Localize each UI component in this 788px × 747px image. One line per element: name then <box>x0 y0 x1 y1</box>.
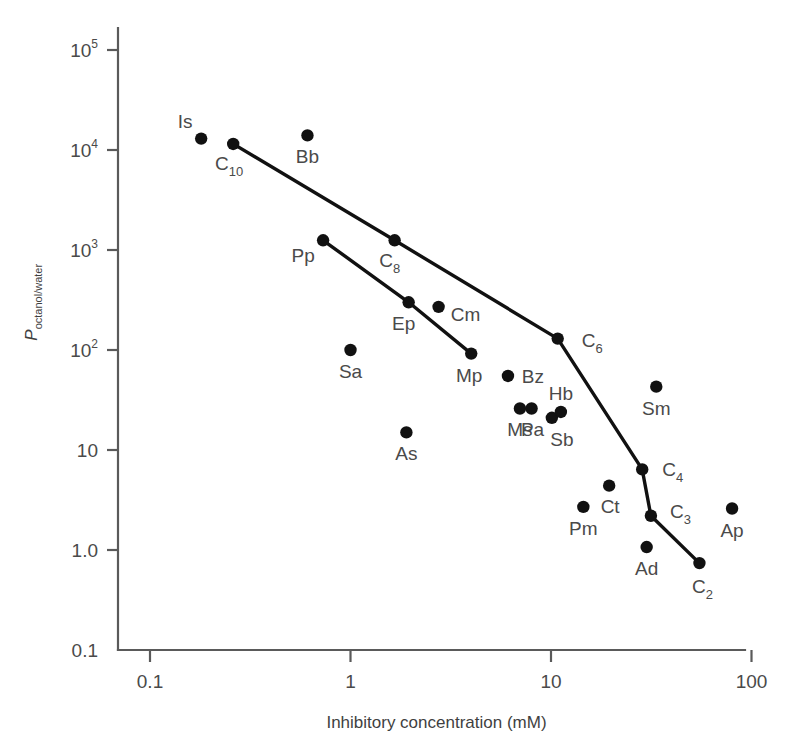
y-axis-tick-label: 10 <box>77 440 98 461</box>
data-point-label: Sm <box>642 398 671 419</box>
y-axis-tick-label: 102 <box>70 337 98 361</box>
y-axis-title: Poctanol/water <box>22 264 44 341</box>
point-labels-group: IsC10BbPpC8SaEpCmMpAsBzMsPaSbHbC6SmCtPmC… <box>178 111 744 602</box>
data-point <box>650 380 662 392</box>
data-point <box>227 138 239 150</box>
data-point-label: C6 <box>582 330 603 356</box>
data-point <box>388 234 400 246</box>
data-point <box>552 332 564 344</box>
x-axis-title: Inhibitory concentration (mM) <box>326 713 546 732</box>
data-point-label: Bz <box>522 366 544 387</box>
x-axis-tick-label: 1 <box>345 671 356 692</box>
data-point-label: C10 <box>215 153 243 179</box>
data-point <box>525 402 537 414</box>
data-point <box>400 426 412 438</box>
y-axis-tick-label: 103 <box>70 237 98 261</box>
data-point-label: Ad <box>635 558 658 579</box>
data-point <box>726 502 738 514</box>
data-point <box>640 541 652 553</box>
data-point-label: Hb <box>549 383 573 404</box>
data-point <box>301 129 313 141</box>
axis-titles-group: Inhibitory concentration (mM)Poctanol/wa… <box>22 264 547 732</box>
data-point <box>603 479 615 491</box>
data-point-label: Ct <box>601 496 621 517</box>
chart-figure: 105104103102101.00.10.1110100 IsC10BbPpC… <box>0 0 788 747</box>
data-point-label: Mp <box>456 365 482 386</box>
data-point-label: C2 <box>692 576 713 602</box>
data-point <box>645 510 657 522</box>
data-point-label: C8 <box>379 250 400 276</box>
y-axis-tick-label: 0.1 <box>72 640 98 661</box>
data-point <box>514 402 526 414</box>
data-point <box>195 132 207 144</box>
y-axis-tick-label: 105 <box>70 37 98 61</box>
data-point-label: Ep <box>392 313 415 334</box>
axes-group: 105104103102101.00.10.1110100 <box>70 28 767 692</box>
data-point-label: Sb <box>550 429 573 450</box>
data-point-label: Pp <box>291 245 314 266</box>
x-axis-tick-label: 10 <box>540 671 561 692</box>
data-point-label: Bb <box>296 146 319 167</box>
data-point-label: Pm <box>569 518 598 539</box>
y-axis-tick-label: 104 <box>70 137 98 161</box>
x-axis-tick-label: 0.1 <box>137 671 163 692</box>
data-point-label: Cm <box>451 304 481 325</box>
data-point <box>317 234 329 246</box>
data-point-label: Is <box>178 111 193 132</box>
data-point-label: Pa <box>521 419 545 440</box>
data-point-label: As <box>395 443 417 464</box>
data-point <box>344 344 356 356</box>
data-point <box>555 406 567 418</box>
data-point <box>402 296 414 308</box>
scatter-plot-svg: 105104103102101.00.10.1110100 IsC10BbPpC… <box>0 0 788 747</box>
y-axis-tick-label: 1.0 <box>72 540 98 561</box>
data-point-label: Ap <box>720 520 743 541</box>
data-point <box>502 370 514 382</box>
data-point-label: Sa <box>339 361 363 382</box>
data-point <box>577 501 589 513</box>
data-point <box>636 463 648 475</box>
series-line <box>323 240 471 353</box>
data-point <box>432 301 444 313</box>
data-point-label: C3 <box>670 501 691 527</box>
data-point <box>693 557 705 569</box>
x-axis-tick-label: 100 <box>736 671 768 692</box>
data-point-label: C4 <box>662 459 683 485</box>
data-point <box>465 347 477 359</box>
